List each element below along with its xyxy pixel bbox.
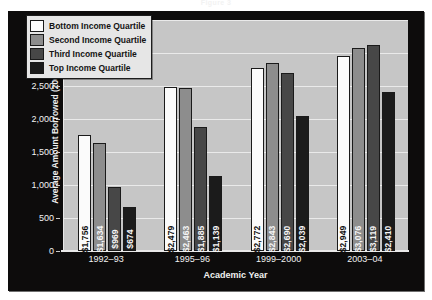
y-axis-tick-mark xyxy=(56,218,60,219)
y-axis-tick-mark xyxy=(56,152,60,153)
bar-value-label: $1,634 xyxy=(95,226,105,253)
y-axis-tick-mark xyxy=(56,119,60,120)
y-axis-tick-2500: 2,500 xyxy=(20,81,60,91)
y-axis-tick-label: 2,500 xyxy=(31,81,54,91)
bar-group: $2,949$3,076$3,119$2,410 xyxy=(337,20,395,251)
bar-value-label: $2,039 xyxy=(297,226,307,253)
x-axis-tick-label: 1995–96 xyxy=(175,254,210,264)
legend-item[interactable]: Top Income Quartile xyxy=(30,61,146,75)
chart-panel: Average Amount Borrowed (2008 Dollars) 0… xyxy=(8,11,424,291)
figure-title: Figure 3 xyxy=(0,0,432,9)
x-axis-title: Academic Year xyxy=(63,270,408,280)
bar-value-label: $1,885 xyxy=(196,226,206,253)
y-axis-tick-1000: 1,000 xyxy=(20,180,60,190)
bar[interactable]: $1,756 xyxy=(78,135,91,251)
bar-value-label: $2,843 xyxy=(267,226,277,253)
y-axis-tick-1500: 1,500 xyxy=(20,147,60,157)
bar[interactable]: $674 xyxy=(123,207,136,251)
legend-swatch-icon xyxy=(30,34,44,46)
bar[interactable]: $2,410 xyxy=(382,92,395,251)
y-axis-tick-label: 1,000 xyxy=(31,180,54,190)
bar[interactable]: $2,690 xyxy=(281,73,294,251)
x-axis-tick-label: 1999–2000 xyxy=(256,254,301,264)
y-axis-tick-0: 0 xyxy=(20,246,60,256)
bar[interactable]: $1,139 xyxy=(209,176,222,251)
legend-item[interactable]: Third Income Quartile xyxy=(30,47,146,61)
bar[interactable]: $3,076 xyxy=(352,48,365,251)
bar[interactable]: $969 xyxy=(108,187,121,251)
bar-value-label: $2,463 xyxy=(181,226,191,253)
bar[interactable]: $2,843 xyxy=(266,63,279,251)
y-axis-tick-mark xyxy=(56,251,60,252)
legend-item[interactable]: Bottom Income Quartile xyxy=(30,19,146,33)
bar-value-label: $3,119 xyxy=(368,226,378,252)
bar-value-label: $2,949 xyxy=(338,226,348,253)
y-axis-tick-label: 500 xyxy=(39,213,54,223)
bar-value-label: $2,690 xyxy=(282,226,292,253)
y-axis-tick-mark xyxy=(56,185,60,186)
y-axis-tick-mark xyxy=(56,86,60,87)
bar[interactable]: $2,949 xyxy=(337,56,350,251)
bar-value-label: $1,756 xyxy=(80,226,90,253)
bar[interactable]: $2,772 xyxy=(251,68,264,251)
bar-value-label: $3,076 xyxy=(353,226,363,253)
legend-label: Third Income Quartile xyxy=(49,49,137,59)
bar-value-label: $2,479 xyxy=(166,226,176,253)
bar[interactable]: $2,039 xyxy=(296,116,309,251)
y-axis-tick-label: 0 xyxy=(49,246,54,256)
bar-group: $2,479$2,463$1,885$1,139 xyxy=(164,20,222,251)
bar[interactable]: $3,119 xyxy=(367,45,380,251)
x-axis-tick-label: 2003–04 xyxy=(347,254,382,264)
bar-group: $2,772$2,843$2,690$2,039 xyxy=(251,20,309,251)
legend-item[interactable]: Second Income Quartile xyxy=(30,33,146,47)
y-axis-tick-label: 2,000 xyxy=(31,114,54,124)
bar[interactable]: $2,463 xyxy=(179,88,192,251)
legend-label: Bottom Income Quartile xyxy=(49,21,145,31)
bar-value-label: $674 xyxy=(125,229,135,248)
legend-label: Top Income Quartile xyxy=(49,63,131,73)
bar[interactable]: $1,634 xyxy=(93,143,106,251)
legend-swatch-icon xyxy=(30,20,44,32)
legend-label: Second Income Quartile xyxy=(49,35,146,45)
bar-value-label: $2,772 xyxy=(252,226,262,253)
bar-value-label: $1,139 xyxy=(211,226,221,253)
bar-value-label: $969 xyxy=(110,229,120,248)
y-axis-tick-500: 500 xyxy=(20,213,60,223)
legend-swatch-icon xyxy=(30,62,44,74)
y-axis-tick-label: 1,500 xyxy=(31,147,54,157)
y-axis-tick-2000: 2,000 xyxy=(20,114,60,124)
chart-legend: Bottom Income QuartileSecond Income Quar… xyxy=(26,15,152,79)
bar-value-label: $2,410 xyxy=(383,226,393,253)
bar[interactable]: $2,479 xyxy=(164,87,177,251)
x-axis-tick-label: 1992–93 xyxy=(89,254,124,264)
legend-swatch-icon xyxy=(30,48,44,60)
bar[interactable]: $1,885 xyxy=(194,127,207,251)
